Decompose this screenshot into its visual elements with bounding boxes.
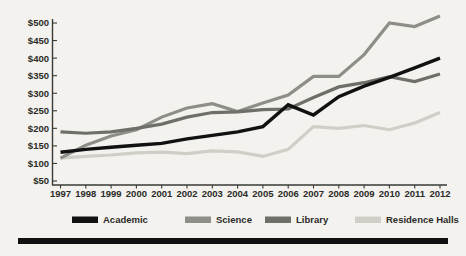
y-tick-label: $100 xyxy=(28,158,49,169)
y-tick-label: $500 xyxy=(28,17,49,28)
chart-legend: AcademicScienceLibraryResidence Halls xyxy=(72,214,459,225)
legend-swatch-science xyxy=(185,217,211,224)
x-tick-label: 2012 xyxy=(429,188,450,199)
x-tick-label: 2003 xyxy=(202,188,223,199)
x-tick-label: 2005 xyxy=(252,188,274,199)
x-tick-label: 1999 xyxy=(101,188,122,199)
chart-series-lines xyxy=(61,16,441,158)
y-tick-label: $400 xyxy=(28,53,49,64)
x-tick-label: 2004 xyxy=(227,188,249,199)
x-tick-label: 2000 xyxy=(126,188,147,199)
series-line-academic xyxy=(61,58,441,152)
chart-figure: $500$450$400$350$300$250$200$150$100$50 … xyxy=(0,0,466,256)
x-tick-label: 2010 xyxy=(379,188,400,199)
axis-spine xyxy=(53,19,448,185)
x-tick-label: 2008 xyxy=(328,188,349,199)
x-tick-label: 2001 xyxy=(151,188,173,199)
x-tick-label: 2006 xyxy=(278,188,299,199)
series-line-science xyxy=(61,16,441,158)
series-line-library xyxy=(61,74,441,133)
legend-label-residence-halls: Residence Halls xyxy=(386,214,459,225)
x-tick-label: 1997 xyxy=(50,188,71,199)
x-axis-tick-labels: 1997199819992000200120022003200420052006… xyxy=(50,185,451,199)
y-tick-label: $150 xyxy=(28,140,49,151)
legend-swatch-residence-halls xyxy=(355,217,381,224)
y-tick-label: $250 xyxy=(28,105,49,116)
y-tick-label: $50 xyxy=(33,175,49,186)
x-tick-label: 2009 xyxy=(354,188,375,199)
footer-rule xyxy=(18,238,448,244)
legend-swatch-academic xyxy=(72,217,98,224)
line-chart: $500$450$400$350$300$250$200$150$100$50 … xyxy=(0,0,466,256)
x-tick-label: 1998 xyxy=(75,188,96,199)
y-tick-label: $450 xyxy=(28,35,49,46)
x-tick-label: 2002 xyxy=(176,188,197,199)
y-tick-label: $300 xyxy=(28,88,49,99)
y-tick-label: $350 xyxy=(28,70,49,81)
legend-label-library: Library xyxy=(296,214,329,225)
legend-label-science: Science xyxy=(216,214,252,225)
chart-axes xyxy=(53,19,448,185)
legend-label-academic: Academic xyxy=(103,214,148,225)
legend-swatch-library xyxy=(265,217,291,224)
x-tick-label: 2007 xyxy=(303,188,324,199)
y-tick-label: $200 xyxy=(28,123,49,134)
x-tick-label: 2011 xyxy=(404,188,425,199)
